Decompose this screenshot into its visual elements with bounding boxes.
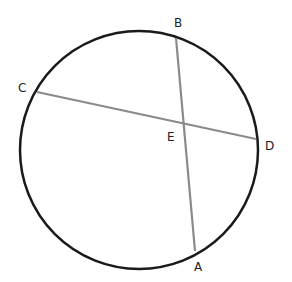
chord-cd <box>37 92 256 139</box>
label-c: C <box>18 81 26 95</box>
chord-ab <box>176 38 195 251</box>
circle <box>20 31 258 269</box>
label-d: D <box>265 139 274 153</box>
label-b: B <box>174 16 182 30</box>
circle-chord-diagram: B C D E A <box>0 0 292 282</box>
label-e: E <box>167 130 175 144</box>
label-a: A <box>194 260 203 274</box>
